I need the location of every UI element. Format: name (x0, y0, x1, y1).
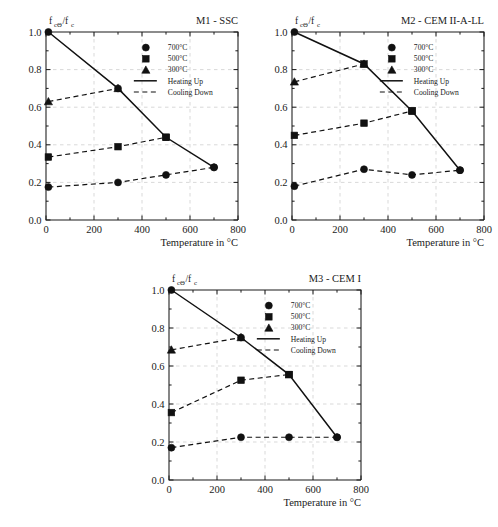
series-line (48, 137, 166, 157)
data-point-square (409, 108, 416, 115)
panel-title: M1 - SSC (196, 15, 238, 26)
x-axis-title: Temperature in °C (160, 237, 238, 248)
x-tick-label: 200 (86, 224, 102, 235)
series-line (48, 32, 214, 167)
legend-line-label: Heating Up (414, 77, 449, 86)
data-point-circle (211, 164, 218, 171)
data-point-circle (45, 29, 52, 36)
x-tick-label: 800 (353, 484, 369, 495)
y-tick-label: 0.8 (151, 323, 164, 334)
legend-item-label: 500°C (414, 54, 434, 63)
x-tick-label: 400 (380, 224, 396, 235)
chart-panel-m3: 02004006008000.00.20.40.60.81.0fcΘ/fcTem… (131, 264, 369, 522)
series-group (167, 287, 340, 452)
tick-labels: 02004006008000.00.20.40.60.81.0 (28, 27, 246, 235)
data-point-triangle (388, 66, 396, 73)
y-axis-title-slash-f: /f (308, 16, 315, 26)
x-tick-label: 800 (476, 224, 492, 235)
y-tick-label: 0.2 (274, 177, 287, 188)
series-line (171, 375, 289, 413)
legend-line-label: Cooling Down (414, 88, 459, 97)
y-axis-title: fcΘ/fc (172, 274, 197, 286)
data-point-circle (238, 434, 245, 441)
legend-item-label: 300°C (291, 323, 311, 332)
chart-svg: 02004006008000.00.20.40.60.81.0fcΘ/fcTem… (131, 264, 369, 522)
y-axis-title-f: f (295, 16, 299, 26)
series-group (290, 29, 463, 190)
legend-item-label: 300°C (414, 65, 434, 74)
y-tick-label: 0.0 (28, 215, 41, 226)
data-point-circle (457, 167, 464, 174)
legend-line-label: Heating Up (168, 77, 203, 86)
data-point-square (143, 56, 150, 63)
x-tick-label: 600 (428, 224, 444, 235)
figure-three-panel-chart: 02004006008000.00.20.40.60.81.0fcΘ/fcTem… (0, 0, 498, 527)
data-point-triangle (142, 66, 150, 73)
y-tick-label: 0.0 (274, 215, 287, 226)
y-tick-label: 0.6 (274, 102, 287, 113)
panel-title: M2 - CEM II-A-LL (401, 15, 484, 26)
data-point-circle (388, 44, 395, 51)
series-line (294, 64, 364, 82)
y-axis-title-f: f (49, 16, 53, 26)
legend-line-label: Heating Up (291, 335, 326, 344)
legend-item-label: 500°C (168, 54, 188, 63)
x-tick-label: 0 (166, 484, 171, 495)
series-line (294, 111, 412, 135)
data-point-circle (45, 184, 52, 191)
x-tick-label: 600 (305, 484, 321, 495)
data-point-square (291, 132, 298, 139)
data-point-circle (361, 166, 368, 173)
y-tick-label: 1.0 (274, 27, 287, 38)
y-tick-label: 0.4 (28, 139, 42, 150)
x-tick-label: 800 (230, 224, 246, 235)
tick-labels: 02004006008000.00.20.40.60.81.0 (274, 27, 492, 235)
data-point-square (266, 314, 273, 321)
data-point-triangle (265, 324, 273, 331)
y-axis-title-sub-ctheta: cΘ (54, 21, 62, 28)
data-point-square (168, 409, 175, 416)
data-point-square (389, 56, 396, 63)
y-tick-label: 0.8 (28, 64, 41, 75)
series-line (48, 88, 118, 101)
tick-labels: 02004006008000.00.20.40.60.81.0 (151, 285, 369, 495)
x-tick-label: 400 (134, 224, 150, 235)
series-line (48, 167, 214, 187)
data-point-circle (291, 29, 298, 36)
legend-line-label: Cooling Down (291, 346, 336, 355)
data-point-circle (286, 434, 293, 441)
y-tick-label: 0.6 (151, 361, 164, 372)
y-tick-label: 0.4 (274, 139, 288, 150)
series-line (171, 338, 241, 350)
data-point-circle (168, 444, 175, 451)
data-point-circle (163, 171, 170, 178)
x-tick-label: 0 (289, 224, 294, 235)
gridlines (169, 290, 361, 480)
legend-item-label: 700°C (168, 43, 188, 52)
x-axis-title: Temperature in °C (283, 497, 361, 508)
data-point-circle (334, 434, 341, 441)
y-tick-label: 0.2 (28, 177, 41, 188)
data-point-circle (291, 183, 298, 190)
series-line (171, 290, 337, 437)
data-point-square (286, 371, 293, 378)
x-tick-label: 200 (332, 224, 348, 235)
data-point-circle (168, 287, 175, 294)
data-point-square (361, 120, 368, 127)
y-axis-title-f: f (172, 274, 176, 284)
series-line (294, 169, 460, 186)
chart-svg: 02004006008000.00.20.40.60.81.0fcΘ/fcTem… (8, 6, 246, 262)
y-axis-title: fcΘ/fc (49, 16, 74, 28)
legend-line-label: Cooling Down (168, 88, 213, 97)
y-tick-label: 0.2 (151, 437, 164, 448)
data-point-circle (409, 171, 416, 178)
y-tick-label: 0.4 (151, 399, 165, 410)
legend-item-label: 500°C (291, 312, 311, 321)
y-axis-title-sub-ctheta: cΘ (177, 279, 185, 286)
series-group (44, 29, 217, 191)
series-line (294, 32, 460, 170)
data-point-circle (115, 179, 122, 186)
x-tick-label: 0 (43, 224, 48, 235)
chart-svg: 02004006008000.00.20.40.60.81.0fcΘ/fcTem… (254, 6, 492, 262)
y-axis-title: fcΘ/fc (295, 16, 320, 28)
